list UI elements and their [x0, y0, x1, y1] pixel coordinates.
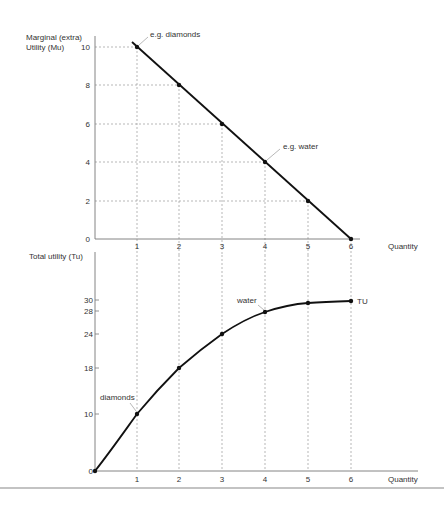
mu-guide-lines: [95, 47, 351, 255]
mu-ytick-6: 6: [86, 120, 91, 129]
mu-annotation-diamonds: e.g. diamonds: [150, 30, 200, 39]
mu-xtick-2: 2: [177, 242, 182, 251]
tu-guide-lines: [137, 255, 351, 471]
utility-charts: Marginal (extra) Utility (Mu) 0 2 4 6 8 …: [0, 0, 444, 509]
tu-curve: [95, 301, 351, 471]
tu-ytick-30: 30: [84, 296, 93, 305]
tu-ytick-0: 0: [89, 467, 94, 476]
tu-water-leader: [258, 305, 264, 310]
tu-points: [93, 299, 353, 473]
tu-annotation-water: water: [236, 296, 257, 305]
mu-xtick-3: 3: [220, 242, 225, 251]
mu-diamonds-leader: [139, 37, 148, 45]
mu-curve: [132, 42, 351, 239]
tu-xlabel: Quantity: [388, 475, 418, 484]
tu-xtick-6: 6: [349, 475, 354, 484]
mu-xtick-4: 4: [263, 242, 268, 251]
mu-ylabel-line1: Marginal (extra): [26, 33, 82, 42]
mu-xtick-1: 1: [135, 242, 140, 251]
mu-ytick-0: 0: [86, 235, 91, 244]
total-utility-chart: Total utility (Tu) 0 10 18 24 28 30: [29, 252, 418, 484]
tu-xtick-4: 4: [263, 475, 268, 484]
mu-ytick-4: 4: [86, 158, 91, 167]
mu-ytick-10: 10: [81, 43, 90, 52]
mu-ytick-2: 2: [86, 197, 91, 206]
tu-ytick-18: 18: [84, 364, 93, 373]
mu-xtick-6: 6: [349, 242, 354, 251]
tu-ytick-28: 28: [84, 307, 93, 316]
mu-ylabel-line2: Utility (Mu): [26, 43, 65, 52]
mu-ytick-8: 8: [86, 81, 91, 90]
tu-xtick-2: 2: [177, 475, 182, 484]
tu-diamonds-leader: [130, 403, 136, 411]
tu-xtick-3: 3: [220, 475, 225, 484]
mu-xtick-5: 5: [306, 242, 311, 251]
marginal-utility-chart: Marginal (extra) Utility (Mu) 0 2 4 6 8 …: [26, 30, 418, 255]
tu-xtick-5: 5: [306, 475, 311, 484]
tu-curve-label: TU: [357, 297, 368, 306]
tu-ytick-10: 10: [84, 410, 93, 419]
mu-annotation-water: e.g. water: [283, 142, 318, 151]
mu-xlabel: Quantity: [388, 242, 418, 251]
tu-ytick-marks: [95, 300, 99, 414]
tu-ylabel: Total utility (Tu): [29, 252, 83, 261]
tu-ytick-24: 24: [84, 330, 93, 339]
mu-water-leader: [267, 149, 280, 160]
tu-annotation-diamonds: diamonds: [100, 393, 135, 402]
tu-xtick-1: 1: [135, 475, 140, 484]
